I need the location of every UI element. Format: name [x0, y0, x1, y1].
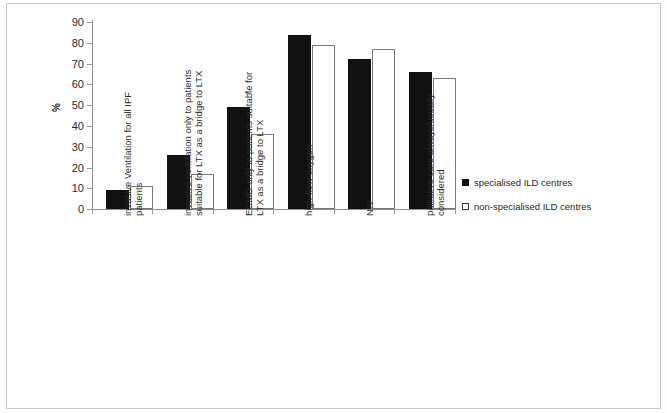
bar-specialised: [348, 59, 371, 209]
y-tick-label: 90: [72, 16, 84, 28]
x-tick-mark: [334, 209, 335, 214]
x-category-label-line1: high-flow oxygen: [303, 145, 314, 216]
x-tick-mark: [213, 209, 214, 214]
x-category-label-line1: ECMO only to patients suitable for: [243, 72, 254, 216]
bar-non-specialised: [372, 49, 395, 209]
y-tick-label: 10: [72, 182, 84, 194]
filled-square-icon: [462, 179, 469, 186]
x-category-label-line2: patients: [133, 92, 144, 216]
open-square-icon: [462, 203, 469, 210]
x-category-label-line1: palliative care always/usually: [424, 94, 435, 216]
x-tick-mark: [92, 209, 93, 214]
x-tick-mark: [273, 209, 274, 214]
x-tick-mark: [394, 209, 395, 214]
legend-item-specialised: specialised ILD centres: [462, 177, 658, 188]
legend-item-non-specialised: non-specialised ILD centres: [462, 201, 658, 212]
x-tick-mark: [455, 209, 456, 214]
y-tick-label: 80: [72, 37, 84, 49]
x-category-label: palliative care always/usually considere…: [424, 94, 446, 216]
x-category-label-line1: invasive Ventilation for all IPF: [122, 92, 133, 216]
chart-page: % 90 80 70 60 50 40 30 20 10 0: [0, 0, 667, 413]
x-category-label-line1: NIV: [364, 200, 375, 216]
bar-non-specialised: [312, 45, 335, 209]
y-tick-label: 20: [72, 162, 84, 174]
y-axis-tick-labels: 90 80 70 60 50 40 30 20 10 0: [56, 0, 84, 413]
x-category-label: invasive Ventilation for all IPF patient…: [122, 92, 144, 216]
x-category-label-line1: invasive ventilation only to patients: [182, 70, 193, 216]
y-tick-label: 60: [72, 78, 84, 90]
x-category-label: ECMO only to patients suitable for LTX a…: [243, 72, 265, 216]
x-category-label-line2: considered: [435, 94, 446, 216]
x-axis-line: [92, 209, 456, 210]
y-tick-label: 50: [72, 99, 84, 111]
x-category-label: NIV: [364, 200, 375, 216]
x-tick-mark: [152, 209, 153, 214]
x-category-label: invasive ventilation only to patients su…: [182, 70, 204, 216]
y-tick-label: 70: [72, 58, 84, 70]
legend-label: non-specialised ILD centres: [474, 201, 591, 212]
x-category-label-line2: LTX as a bridge to LTX: [254, 72, 265, 216]
legend-label: specialised ILD centres: [474, 177, 572, 188]
y-tick-label: 0: [78, 203, 84, 215]
plot-area: *: [92, 22, 456, 209]
y-tick-label: 30: [72, 141, 84, 153]
y-tick-label: 40: [72, 120, 84, 132]
x-category-label-line2: suitable for LTX as a bridge to LTX: [193, 70, 204, 216]
x-category-label: high-flow oxygen: [303, 145, 314, 216]
chart-legend: specialised ILD centres non-specialised …: [462, 177, 658, 225]
